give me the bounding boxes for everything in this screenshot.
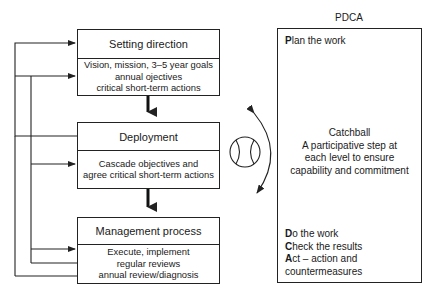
step-title: Management process: [78, 218, 219, 245]
step-deployment: Deployment Cascade objectives and agree …: [77, 122, 220, 189]
step-line: annual review/diagnosis: [98, 269, 198, 281]
plan-text: lan the work: [292, 35, 346, 46]
catchball-title: Catchball: [278, 127, 421, 140]
pdca-box: Plan the work Catchball A participative …: [277, 28, 422, 283]
step-line: Vision, mission, 3–5 year goals: [84, 59, 213, 71]
catchball-description: Catchball A participative step at each l…: [278, 127, 421, 177]
pdca-act-continued: countermeasures: [285, 266, 362, 279]
step-description: Cascade objectives and agree critical sh…: [78, 150, 219, 188]
step-line: Cascade objectives and: [99, 158, 199, 170]
baseball-icon: [230, 137, 260, 167]
step-title: Setting direction: [78, 30, 219, 59]
act-text: ct – action and: [292, 253, 357, 264]
catchball-line: each level to ensure: [278, 152, 421, 165]
catchball-line: capability and commitment: [278, 165, 421, 178]
step-line: Execute, implement: [107, 246, 189, 258]
step-line: annual ojectives: [115, 71, 182, 83]
catchball-line: A participative step at: [278, 140, 421, 153]
pdca-title: PDCA: [277, 12, 421, 23]
step-line: regular reviews: [117, 258, 181, 270]
check-text: heck the results: [292, 241, 362, 252]
pdca-act: Act – action and: [285, 253, 362, 266]
feedback-arrow-setting-direction: [15, 43, 77, 136]
pdca-do: Do the work: [285, 228, 362, 241]
step-line: agree critical short-term actions: [83, 169, 214, 181]
step-description: Execute, implement regular reviews annua…: [78, 244, 219, 283]
step-setting-direction: Setting direction Vision, mission, 3–5 y…: [77, 29, 220, 96]
curved-double-arrow-icon: [254, 113, 271, 193]
pdca-check: Check the results: [285, 241, 362, 254]
pdca-plan: Plan the work: [285, 35, 346, 48]
step-title: Deployment: [78, 123, 219, 151]
step-line: critical short-term actions: [96, 82, 200, 94]
do-text: o the work: [292, 228, 338, 239]
plan-initial: P: [285, 35, 292, 46]
step-management-process: Management process Execute, implement re…: [77, 217, 220, 284]
step-description: Vision, mission, 3–5 year goals annual o…: [78, 58, 219, 95]
pdca-do-check-act: Do the work Check the results Act – acti…: [285, 228, 362, 278]
